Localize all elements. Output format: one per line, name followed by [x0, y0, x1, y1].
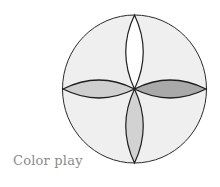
- caption: Color play: [13, 153, 83, 168]
